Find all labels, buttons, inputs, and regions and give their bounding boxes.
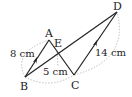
label-d: D xyxy=(113,0,122,13)
measure-cd: 14 cm xyxy=(95,47,127,58)
label-a: A xyxy=(44,27,54,40)
label-b: B xyxy=(20,80,28,93)
measure-height: 5 cm xyxy=(43,66,68,77)
label-c: C xyxy=(71,79,79,92)
geometry-figure: A B C D E 8 cm 5 cm 14 cm xyxy=(0,0,132,97)
measure-ab: 8 cm xyxy=(10,48,35,59)
segment-bd xyxy=(25,12,117,77)
label-e: E xyxy=(54,37,62,50)
